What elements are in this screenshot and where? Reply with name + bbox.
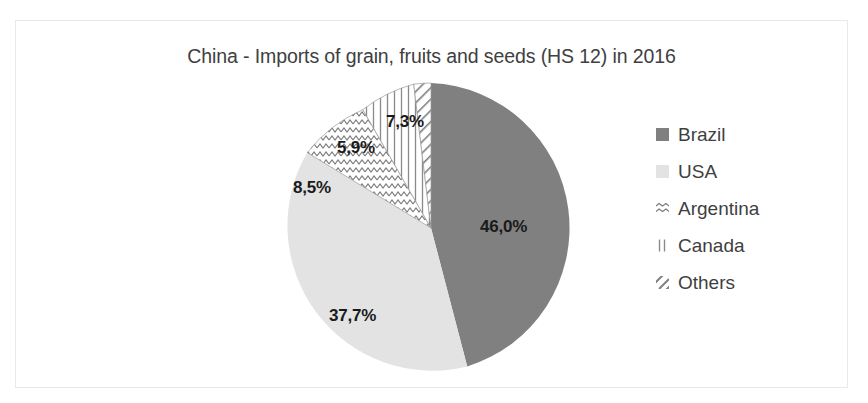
legend-label-canada: Canada — [678, 236, 745, 255]
pie-label-argentina: 8,5% — [293, 178, 331, 198]
square-solid-light-icon — [656, 165, 669, 178]
legend-label-argentina: Argentina — [678, 199, 759, 218]
legend-label-brazil: Brazil — [678, 125, 726, 144]
pie-label-usa: 37,7% — [329, 306, 376, 326]
square-solid-dark-icon — [656, 128, 669, 141]
pie-label-canada: 5,9% — [337, 138, 375, 158]
legend-item-usa[interactable]: USA — [656, 153, 836, 190]
pie-chart-plot-area: 46,0% 37,7% 8,5% 5,9% 7,3% Brazil USA — [16, 21, 849, 389]
legend-item-others[interactable]: Others — [656, 264, 836, 301]
legend-label-usa: USA — [678, 162, 717, 181]
chart-legend: Brazil USA Argentina — [656, 116, 836, 301]
pie-label-others: 7,3% — [386, 112, 424, 132]
legend-item-canada[interactable]: Canada — [656, 227, 836, 264]
legend-item-brazil[interactable]: Brazil — [656, 116, 836, 153]
legend-item-argentina[interactable]: Argentina — [656, 190, 836, 227]
square-zigzag-icon — [656, 202, 669, 215]
pie-label-brazil: 46,0% — [480, 217, 527, 237]
square-vertical-lines-icon — [656, 239, 669, 252]
square-diagonal-stripes-icon — [656, 276, 669, 289]
chart-frame: China - Imports of grain, fruits and see… — [15, 20, 848, 388]
legend-label-others: Others — [678, 273, 735, 292]
pie-chart-graphic — [281, 78, 581, 378]
